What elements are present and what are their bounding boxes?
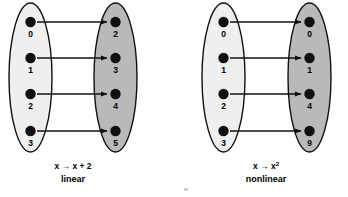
- codomain-node-label: 5: [113, 138, 118, 148]
- figure-root: 0 1 2 3 2 3 4 5 x → x + 2 linear: [0, 0, 348, 197]
- codomain-node-label: 1: [307, 65, 312, 75]
- codomain-node-dot: [110, 89, 120, 99]
- codomain-node-dot: [110, 17, 120, 27]
- domain-node-dot: [25, 89, 35, 99]
- codomain-node-dot: [304, 17, 314, 27]
- domain-node-label: 3: [221, 138, 226, 148]
- domain-node-label: 1: [28, 65, 33, 75]
- caption-formula-linear: x → x + 2: [54, 161, 91, 171]
- codomain-node-label: 0: [307, 29, 312, 39]
- domain-node-label: 0: [221, 29, 226, 39]
- domain-node-dot: [25, 53, 35, 63]
- domain-node-dot: [25, 126, 35, 136]
- caption-kind-linear: linear: [61, 174, 86, 184]
- codomain-node-dot: [304, 89, 314, 99]
- domain-node-dot: [218, 126, 228, 136]
- mapping-diagram-canvas: 0 1 2 3 2 3 4 5 x → x + 2 linear: [0, 0, 348, 197]
- domain-node-label: 2: [28, 101, 33, 111]
- domain-node-dot: [25, 17, 35, 27]
- codomain-node-label: 2: [113, 29, 118, 39]
- domain-node-label: 3: [28, 138, 33, 148]
- codomain-node-dot: [110, 53, 120, 63]
- domain-node-dot: [218, 17, 228, 27]
- codomain-node-dot: [304, 53, 314, 63]
- codomain-node-dot: [304, 126, 314, 136]
- caption-kind-nonlinear: nonlinear: [246, 174, 287, 184]
- domain-node-dot: [218, 53, 228, 63]
- codomain-node-dot: [110, 126, 120, 136]
- diagram-nonlinear: 0 1 2 3 0 1 4 9 x → x2 nonlinear: [202, 3, 331, 184]
- codomain-node-label: 3: [113, 65, 118, 75]
- domain-node-label: 0: [28, 29, 33, 39]
- page-speck: [184, 188, 188, 191]
- caption-formula-nonlinear: x → x2: [253, 161, 280, 172]
- domain-node-label: 2: [221, 101, 226, 111]
- codomain-node-label: 4: [307, 101, 312, 111]
- domain-node-label: 1: [221, 65, 226, 75]
- caption-formula-exponent: 2: [276, 161, 280, 167]
- domain-node-dot: [218, 89, 228, 99]
- caption-formula-base: x → x: [253, 161, 276, 171]
- diagram-linear: 0 1 2 3 2 3 4 5 x → x + 2 linear: [9, 3, 137, 184]
- codomain-node-label: 4: [113, 101, 118, 111]
- codomain-node-label: 9: [307, 138, 312, 148]
